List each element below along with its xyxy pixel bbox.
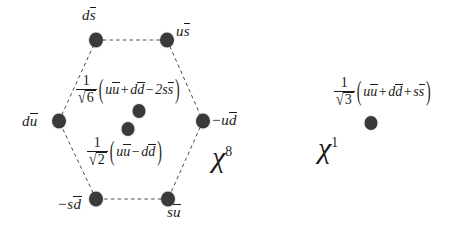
node-dot-singlet (365, 117, 377, 130)
label-left-lead: d (22, 113, 30, 129)
node-dot-center-lower (122, 123, 134, 136)
label-top-right: us (176, 24, 190, 39)
label-bottom-right-bar: u (173, 205, 181, 220)
radicand-value: 3 (344, 92, 353, 108)
singlet-symbol: χ1 (318, 133, 338, 163)
term-op-2: + (402, 84, 413, 99)
node-dot-left (53, 114, 66, 128)
node-dot-bottom-left (90, 192, 103, 206)
term-op-2: − (144, 82, 155, 97)
sqrt-icon: √ (78, 90, 86, 106)
label-top-left-lead: d (82, 7, 90, 23)
paren-close-icon: ) (426, 79, 431, 106)
fraction-one-over-sqrt2: 1 √2 (87, 136, 108, 168)
label-top-left-bar: s (90, 8, 96, 23)
label-top-left: ds (82, 8, 96, 23)
term-bar-0: u (370, 85, 377, 99)
term-lead-1: d (130, 82, 137, 97)
terms-octet-isotriplet: uu−dd (115, 145, 156, 159)
octet-symbol-superscript: 8 (225, 144, 232, 159)
paren-open-icon: ( (110, 139, 115, 166)
term-lead-1: d (388, 84, 395, 99)
hex-edge-lower-right (168, 121, 203, 199)
label-bottom-left: −sd (57, 197, 81, 212)
meson-weight-diagram: ds us du −ud −sd su 1 √6 ( uu+dd−2ss ) 1… (0, 0, 473, 232)
paren-close-icon: ) (157, 139, 162, 166)
label-top-right-lead: u (176, 23, 184, 39)
label-right: −ud (211, 113, 237, 128)
fraction-one-over-sqrt3: 1 √3 (334, 76, 355, 108)
term-bar-0: u (112, 83, 119, 97)
label-right-bar: d (229, 113, 237, 128)
fraction-numerator: 1 (338, 76, 351, 91)
label-bottom-right: su (167, 205, 181, 220)
node-dot-right (197, 114, 210, 128)
radicand-value: 2 (97, 152, 106, 168)
terms-singlet: uu+dd+ss (362, 85, 425, 99)
fraction-numerator: 1 (91, 136, 104, 151)
label-left-bar: u (30, 114, 38, 129)
term-lead-0: u (116, 144, 123, 159)
paren-close-icon: ) (175, 77, 180, 104)
singlet-symbol-superscript: 1 (331, 135, 338, 150)
term-op-1: − (130, 144, 141, 159)
fraction-denominator: √2 (87, 152, 108, 168)
expression-octet-isotriplet: 1 √2 ( uu−dd ) (87, 136, 163, 168)
node-dot-top-right (161, 33, 174, 47)
node-dot-center-upper (133, 105, 145, 118)
fraction-denominator: √3 (334, 92, 355, 108)
paren-open-icon: ( (99, 77, 104, 104)
term-lead-0: u (363, 84, 370, 99)
octet-symbol-glyph: χ (212, 140, 225, 173)
term-bar-1: d (137, 83, 144, 97)
label-bottom-left-lead: −s (57, 196, 73, 212)
term-lead-2: 2s (155, 82, 167, 97)
term-bar-1: d (395, 85, 402, 99)
label-top-right-bar: s (184, 24, 190, 39)
term-op-1: + (119, 82, 130, 97)
octet-symbol: χ8 (212, 142, 232, 172)
term-bar-0: u (123, 145, 130, 159)
fraction-one-over-sqrt6: 1 √6 (76, 74, 97, 106)
fraction-numerator: 1 (80, 74, 93, 89)
fraction-denominator: √6 (76, 90, 97, 106)
radicand-value: 6 (86, 90, 95, 106)
term-bar-2: s (419, 85, 424, 99)
term-bar-1: d (148, 145, 155, 159)
terms-octet-isosinglet: uu+dd−2ss (104, 83, 174, 97)
paren-open-icon: ( (357, 79, 362, 106)
label-right-lead: −u (211, 112, 229, 128)
singlet-symbol-glyph: χ (318, 131, 331, 164)
term-op-1: + (377, 84, 388, 99)
label-left: du (22, 114, 37, 129)
expression-octet-isosinglet: 1 √6 ( uu+dd−2ss ) (76, 74, 181, 106)
term-lead-0: u (105, 82, 112, 97)
sqrt-icon: √ (336, 92, 344, 108)
sqrt-icon: √ (89, 152, 97, 168)
expression-singlet: 1 √3 ( uu+dd+ss ) (334, 76, 432, 108)
term-lead-1: d (141, 144, 148, 159)
term-bar-2: s (168, 83, 173, 97)
node-dot-top-left (90, 33, 103, 47)
label-bottom-left-bar: d (73, 197, 81, 212)
